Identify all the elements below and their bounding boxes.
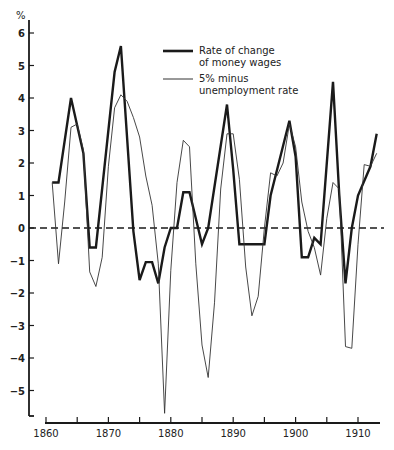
y-tick-label: 1 xyxy=(18,191,25,202)
y-tick-label: −4 xyxy=(10,353,25,364)
x-tick-label: 1890 xyxy=(220,428,245,439)
legend: Rate of change of money wages 5% minus u… xyxy=(163,45,298,96)
x-tick-label: 1880 xyxy=(158,428,183,439)
y-tick-label: 2 xyxy=(18,158,25,169)
x-tick-label: 1900 xyxy=(283,428,308,439)
y-tick-label: 0 xyxy=(18,223,25,234)
legend-label-unemployment-2: unemployment rate xyxy=(199,85,298,96)
y-tick-label: −2 xyxy=(10,288,25,299)
y-axis-unit: % xyxy=(16,10,26,21)
x-tick-label: 1910 xyxy=(345,428,370,439)
axes: %6543210−1−2−3−4−51860187018801890190019… xyxy=(10,10,380,439)
x-tick-label: 1860 xyxy=(33,428,58,439)
x-tick-label: 1870 xyxy=(96,428,121,439)
y-tick-label: 4 xyxy=(18,93,25,104)
y-tick-label: −1 xyxy=(10,256,25,267)
y-tick-label: −5 xyxy=(10,386,25,397)
y-tick-label: 5 xyxy=(18,61,25,72)
y-tick-label: 6 xyxy=(18,28,25,39)
legend-label-wages-2: of money wages xyxy=(199,57,281,68)
series-lines xyxy=(52,46,377,413)
legend-label-unemployment-1: 5% minus xyxy=(199,73,248,84)
y-tick-label: −3 xyxy=(10,321,25,332)
chart: %6543210−1−2−3−4−51860187018801890190019… xyxy=(0,0,394,450)
y-tick-label: 3 xyxy=(18,126,25,137)
legend-label-wages-1: Rate of change xyxy=(199,45,275,56)
